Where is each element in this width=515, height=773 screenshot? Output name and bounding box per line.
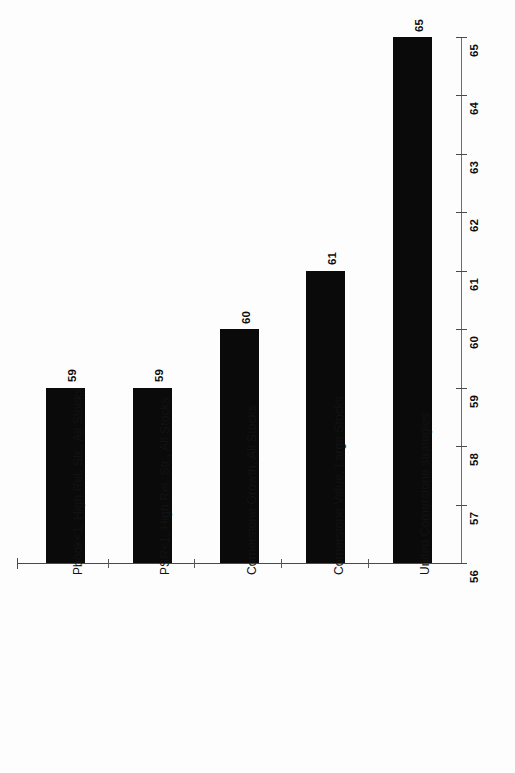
value-tick-label-60: 60 (468, 305, 480, 349)
value-axis-line (461, 37, 462, 564)
value-tick-60 (456, 329, 467, 330)
category-tick-1 (108, 559, 109, 568)
category-label-4: Cornerstone Value, Large Stocks (332, 396, 346, 575)
value-tick-63 (456, 154, 467, 155)
plot-area: 56 57 58 59 60 61 62 63 64 65 59 59 60 (0, 0, 515, 773)
value-tick-label-58: 58 (468, 422, 480, 466)
value-tick-label-65: 65 (468, 13, 480, 57)
value-tick-62 (456, 212, 467, 213)
category-label-2: PSR<1, High Rel. Str., All Stocks (158, 397, 172, 575)
bar-value-label-4: 61 (326, 252, 338, 265)
value-tick-label-56: 56 (468, 539, 480, 583)
value-tick-61 (456, 271, 467, 272)
category-tick-2 (194, 559, 195, 568)
bar-value-label-2: 59 (153, 369, 165, 382)
value-tick-label-63: 63 (468, 130, 480, 174)
category-tick-4 (368, 559, 369, 568)
value-tick-label-59: 59 (468, 364, 480, 408)
bar-value-label-3: 60 (240, 310, 252, 323)
value-tick-56 (456, 563, 467, 564)
value-tick-65 (456, 37, 467, 38)
value-tick-label-61: 61 (468, 247, 480, 291)
category-tick-3 (281, 559, 282, 568)
category-label-3: Cornerstone Growth, All Stocks (245, 405, 259, 575)
value-tick-label-64: 64 (468, 71, 480, 115)
value-tick-58 (456, 446, 467, 447)
chart-page: 56 57 58 59 60 61 62 63 64 65 59 59 60 (0, 0, 515, 773)
bar-value-label-5: 65 (413, 18, 425, 31)
value-tick-label-62: 62 (468, 188, 480, 232)
category-axis-endcap (17, 558, 18, 569)
bar-value-label-1: 59 (66, 369, 78, 382)
category-label-1: Pbook<1, High Rel. Str., All Stocks (71, 388, 85, 575)
value-tick-57 (456, 505, 467, 506)
value-tick-label-57: 57 (468, 481, 480, 525)
value-tick-64 (456, 95, 467, 96)
category-label-5: United Cornerstone strategies (418, 413, 432, 575)
value-tick-59 (456, 388, 467, 389)
